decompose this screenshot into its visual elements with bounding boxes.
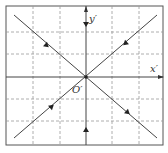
arrow-upper-right-icon bbox=[121, 40, 129, 48]
phase-portrait bbox=[0, 0, 168, 153]
arrow-y-bottom-icon bbox=[83, 127, 89, 132]
y-axis-arrowhead-icon bbox=[84, 6, 88, 12]
y-axis-label: y′ bbox=[89, 14, 97, 24]
origin-label: O′ bbox=[72, 85, 82, 95]
origin-point bbox=[84, 75, 88, 79]
x-axis-label: x′ bbox=[150, 64, 158, 74]
